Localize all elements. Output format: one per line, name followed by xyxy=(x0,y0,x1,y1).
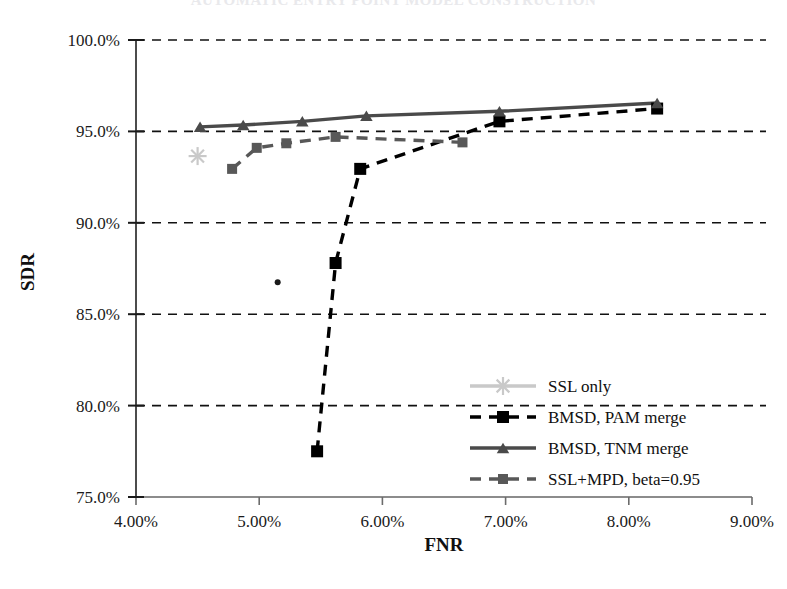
x-tick-group xyxy=(136,497,752,505)
y-tick-label: 90.0% xyxy=(76,214,120,233)
x-tick-label: 5.00% xyxy=(237,512,281,531)
chart-legend: SSL onlyBMSD, PAM mergeBMSD, TNM mergeSS… xyxy=(470,377,700,489)
data-marker-square xyxy=(457,137,467,147)
x-tick-label: 9.00% xyxy=(730,512,774,531)
chart-svg: 4.00%5.00%6.00%7.00%8.00%9.00% 75.0%80.0… xyxy=(0,0,787,589)
x-tick-label-group: 4.00%5.00%6.00%7.00%8.00%9.00% xyxy=(114,512,774,531)
gridlines-group xyxy=(136,40,766,406)
data-marker-asterisk xyxy=(494,377,512,395)
data-marker-square xyxy=(252,143,262,153)
data-marker-square xyxy=(497,411,509,423)
series-lines-group xyxy=(200,103,657,451)
legend-item[interactable]: SSL+MPD, beta=0.95 xyxy=(470,470,700,489)
legend-item[interactable]: SSL only xyxy=(470,377,612,396)
data-marker-square xyxy=(331,132,341,142)
y-tick-label: 75.0% xyxy=(76,488,120,507)
data-marker-square xyxy=(330,257,342,269)
y-tick-label-group: 75.0%80.0%85.0%90.0%95.0%100.0% xyxy=(68,31,120,507)
y-tick-label: 95.0% xyxy=(76,122,120,141)
series-line xyxy=(232,137,462,169)
data-marker-dot xyxy=(275,279,281,285)
series-line xyxy=(317,109,657,452)
data-marker-square xyxy=(493,115,505,127)
chart-container: AUTOMATIC ENTRY POINT MODEL CONSTRUCTION… xyxy=(0,0,787,589)
y-tick-label: 85.0% xyxy=(76,305,120,324)
legend-item[interactable]: BMSD, TNM merge xyxy=(470,439,689,458)
x-axis-label: FNR xyxy=(424,534,463,555)
legend-label: SSL+MPD, beta=0.95 xyxy=(548,470,700,489)
data-marker-square xyxy=(311,445,323,457)
data-marker-asterisk xyxy=(189,147,207,165)
data-marker-square xyxy=(281,138,291,148)
x-tick-label: 8.00% xyxy=(607,512,651,531)
x-tick-label: 4.00% xyxy=(114,512,158,531)
x-tick-label: 7.00% xyxy=(484,512,528,531)
y-tick-label: 100.0% xyxy=(68,31,120,50)
extra-points-group xyxy=(275,279,281,285)
data-marker-square xyxy=(227,164,237,174)
legend-item[interactable]: BMSD, PAM merge xyxy=(470,408,686,427)
series-markers-group xyxy=(189,98,664,457)
legend-label: BMSD, TNM merge xyxy=(548,439,689,458)
data-marker-square xyxy=(498,474,508,484)
data-marker-square xyxy=(354,163,366,175)
legend-label: BMSD, PAM merge xyxy=(548,408,686,427)
legend-label: SSL only xyxy=(548,377,612,396)
y-axis-label: SDR xyxy=(17,253,38,291)
x-tick-label: 6.00% xyxy=(360,512,404,531)
y-tick-label: 80.0% xyxy=(76,397,120,416)
